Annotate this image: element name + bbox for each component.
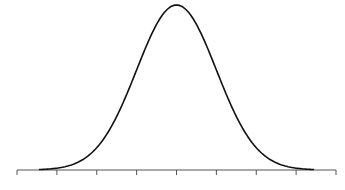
x-axis	[17, 170, 336, 175]
bell-curve-chart	[0, 0, 345, 190]
normal-distribution-curve	[39, 5, 314, 170]
